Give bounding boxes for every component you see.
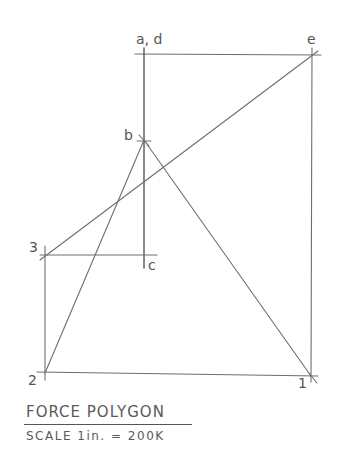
label-1: 1 xyxy=(298,376,307,390)
label-b: b xyxy=(124,128,133,142)
label-2: 2 xyxy=(28,373,37,387)
diagram-title: FORCE POLYGON xyxy=(26,403,165,421)
line-e-1 xyxy=(311,48,312,382)
line-b-2 xyxy=(45,140,144,373)
title-underline xyxy=(24,424,192,425)
scale-note: SCALE 1in. = 200K xyxy=(26,429,165,443)
tick-1 xyxy=(309,373,317,383)
line-b-1 xyxy=(144,140,311,376)
label-e: e xyxy=(307,32,316,46)
line-ad-e xyxy=(135,54,321,55)
line-3-e xyxy=(40,51,318,260)
label-a-d: a, d xyxy=(136,32,162,46)
label-3: 3 xyxy=(29,240,38,254)
force-polygon-diagram xyxy=(0,0,341,458)
line-2-1 xyxy=(37,372,318,376)
label-c: c xyxy=(148,258,156,272)
